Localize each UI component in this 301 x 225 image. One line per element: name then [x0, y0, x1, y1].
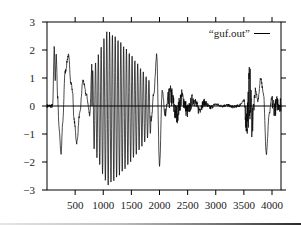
bottom-divider — [0, 223, 301, 225]
y-tick-label: 1 — [30, 72, 36, 84]
x-tick-label: 4000 — [261, 199, 284, 211]
x-tick-label: 500 — [67, 199, 84, 211]
y-tick-label: −3 — [23, 184, 35, 196]
x-tick-label: 3000 — [205, 199, 228, 211]
x-tick-label: 1000 — [92, 199, 115, 211]
legend: “guf.out” — [209, 27, 270, 39]
x-tick-label: 1500 — [120, 199, 143, 211]
y-tick-label: 2 — [30, 44, 36, 56]
guf-out-series — [47, 32, 281, 185]
x-tick-label: 2000 — [149, 199, 172, 211]
line-chart: 5001000150020002500300035004000 −3−2−101… — [0, 0, 301, 225]
y-tick-label: 0 — [30, 100, 36, 112]
legend-label: “guf.out” — [209, 27, 250, 39]
y-tick-label: 3 — [30, 16, 36, 28]
y-tick-label: −2 — [23, 156, 35, 168]
signal-line — [47, 32, 281, 185]
x-tick-label: 2500 — [177, 199, 200, 211]
x-tick-label: 3500 — [233, 199, 256, 211]
y-tick-label: −1 — [23, 128, 35, 140]
